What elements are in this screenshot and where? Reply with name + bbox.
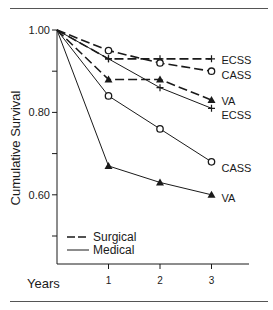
plus-marker <box>208 105 215 112</box>
x-axis-label: Years <box>27 276 60 291</box>
circle-marker <box>105 47 111 53</box>
x-tick-label: 3 <box>209 275 215 286</box>
y-tick-label: 0.60 <box>29 189 50 201</box>
surgical-ecss-line <box>57 30 212 59</box>
series-lines <box>57 30 216 198</box>
series-end-labels: ECSSCASSVAECSSCASSVA <box>222 54 252 204</box>
legend-label-surgical: Surgical <box>93 230 136 244</box>
y-tick-label: 0.80 <box>29 106 50 118</box>
circle-marker <box>208 68 214 74</box>
medical-ecss-line <box>57 30 212 108</box>
surgical-va-line <box>57 30 212 100</box>
surgical-va-label: VA <box>222 95 237 107</box>
triangle-marker <box>105 162 113 169</box>
medical-cass-line <box>57 30 212 162</box>
circle-marker <box>157 126 163 132</box>
x-tick-label: 1 <box>106 275 112 286</box>
plus-marker <box>157 84 164 91</box>
medical-ecss-label: ECSS <box>222 109 252 121</box>
surgical-cass-label: CASS <box>222 69 252 81</box>
plus-marker <box>105 55 112 62</box>
legend-label-medical: Medical <box>93 243 134 257</box>
plus-marker <box>208 55 215 62</box>
surgical-ecss-label: ECSS <box>222 54 252 66</box>
medical-cass-label: CASS <box>222 162 252 174</box>
survival-chart: 1.000.800.60123YearsCumulative Survival … <box>0 0 273 310</box>
surgical-cass-line <box>57 30 212 71</box>
circle-marker <box>157 60 163 66</box>
circle-marker <box>208 159 214 165</box>
legend: SurgicalMedical <box>67 230 136 257</box>
y-tick-label: 1.00 <box>29 24 50 36</box>
medical-va-label: VA <box>222 192 237 204</box>
circle-marker <box>105 93 111 99</box>
y-axis-label: Cumulative Survival <box>8 90 23 205</box>
x-tick-label: 2 <box>157 275 163 286</box>
